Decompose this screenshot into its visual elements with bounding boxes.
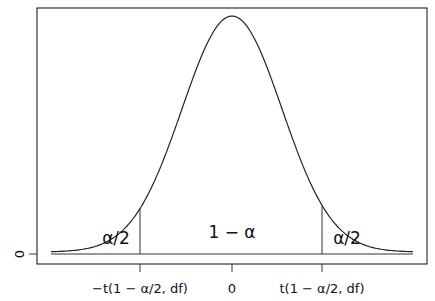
right-tail-label: α/2 (333, 228, 361, 248)
left-tail-label: α/2 (102, 228, 130, 248)
y-tick-label-zero: 0 (12, 250, 27, 258)
x-tick-label-zero: 0 (228, 281, 236, 296)
x-tick-label-upper: t(1 − α/2, df) (280, 281, 365, 296)
t-distribution-chart: 0 −t(1 − α/2, df) 0 t(1 − α/2, df) α/2 1… (0, 0, 435, 301)
center-region-label: 1 − α (208, 222, 255, 242)
x-tick-label-lower: −t(1 − α/2, df) (92, 281, 188, 296)
density-curve (51, 16, 413, 252)
